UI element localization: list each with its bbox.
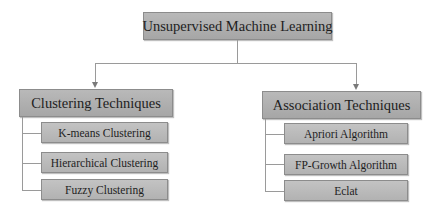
leaf-node-hierarchical: Hierarchical Clustering bbox=[41, 152, 168, 173]
leaf-node-apriori: Apriori Algorithm bbox=[284, 123, 408, 144]
connector-to-clustering bbox=[95, 63, 96, 83]
category-node-clustering: Clustering Techniques bbox=[19, 89, 173, 117]
root-connector-horizontal bbox=[95, 63, 357, 64]
clustering-tree-branch bbox=[22, 190, 41, 191]
association-tree-branch bbox=[265, 134, 284, 135]
leaf-node-fp-growth: FP-Growth Algorithm bbox=[284, 154, 408, 175]
clustering-tree-branch bbox=[22, 163, 41, 164]
clustering-tree-spine bbox=[22, 117, 23, 191]
association-tree-branch bbox=[265, 164, 284, 165]
connector-to-association bbox=[356, 63, 357, 85]
root-connector-vertical bbox=[237, 40, 238, 63]
association-tree-branch bbox=[265, 191, 284, 192]
arrow-down-icon bbox=[353, 84, 359, 90]
leaf-node-kmeans: K-means Clustering bbox=[41, 122, 168, 143]
clustering-tree-branch bbox=[22, 133, 41, 134]
leaf-node-eclat: Eclat bbox=[284, 180, 408, 201]
arrow-down-icon bbox=[92, 82, 98, 88]
association-tree-spine bbox=[265, 119, 266, 192]
root-node-unsupervised-ml: Unsupervised Machine Learning bbox=[143, 12, 332, 40]
category-node-association: Association Techniques bbox=[262, 91, 421, 119]
leaf-node-fuzzy: Fuzzy Clustering bbox=[41, 179, 168, 200]
